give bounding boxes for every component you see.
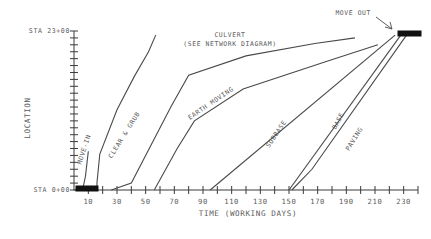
label-culvert: CULVERT (214, 31, 245, 39)
x-axis-title: TIME (WORKING DAYS) (199, 209, 297, 218)
x-tick-label: 90 (198, 197, 208, 206)
x-tick-label: 30 (112, 197, 122, 206)
move-out-leader-line (376, 17, 392, 29)
label-culvert-note: (SEE NETWORK DIAGRAM) (183, 40, 276, 48)
y-tick-label-bottom: STA 0+00 (33, 186, 70, 194)
x-tick-label: 150 (282, 197, 297, 206)
x-axis-tick-labels: 1030507090110130150170190210230 (83, 197, 411, 206)
x-tick-label: 170 (310, 197, 325, 206)
label-move-in: MOVE-IN (75, 133, 92, 165)
x-tick-label: 130 (253, 197, 268, 206)
series-lines (83, 35, 407, 190)
series-line-paving (292, 35, 407, 190)
label-subbase: SUBBASE (264, 119, 288, 149)
x-tick-label: 70 (169, 197, 179, 206)
move-in-bar (76, 186, 98, 191)
series-line-culvert (111, 38, 355, 190)
y-axis-title: LOCATION (23, 97, 32, 138)
time-location-chart: 1030507090110130150170190210230 STA 23+0… (0, 0, 431, 239)
x-tick-label: 10 (83, 197, 93, 206)
series-line-base (289, 35, 401, 190)
x-tick-label: 50 (141, 197, 151, 206)
y-tick-label-top: STA 23+00 (29, 27, 70, 35)
label-clear-and-grub: CLEAR & GRUB (107, 110, 142, 160)
x-tick-label: 110 (224, 197, 239, 206)
axis-group (74, 31, 418, 190)
x-tick-label: 210 (368, 197, 383, 206)
label-paving: PAVING (344, 126, 365, 153)
label-earth-moving: EARTH MOVING (187, 85, 236, 121)
x-tick-label: 190 (339, 197, 354, 206)
x-tick-label: 230 (396, 197, 411, 206)
chart-canvas: 1030507090110130150170190210230 STA 23+0… (0, 0, 431, 239)
move-out-bar (398, 31, 421, 36)
series-line-clear-grub (97, 35, 156, 190)
label-move-out: MOVE OUT (335, 9, 371, 17)
label-base: BASE (331, 111, 346, 130)
